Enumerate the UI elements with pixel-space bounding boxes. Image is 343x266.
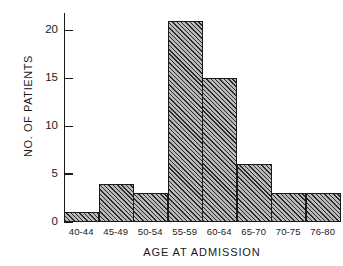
histogram-bar <box>168 21 203 222</box>
y-tick-label: 20 <box>32 24 58 36</box>
histogram-bar <box>64 212 99 222</box>
x-tick-label: 50-54 <box>133 226 168 237</box>
plot-area <box>64 13 340 222</box>
y-axis-line <box>64 13 65 222</box>
x-tick-label: 60-64 <box>202 226 237 237</box>
y-tick-mark <box>64 78 73 79</box>
y-tick-mark <box>64 30 73 31</box>
y-tick-label: 10 <box>32 120 58 132</box>
x-tick-label: 76-80 <box>306 226 341 237</box>
y-tick-label: 15 <box>32 72 58 84</box>
y-tick-label: 0 <box>32 216 58 228</box>
y-tick-mark <box>64 126 73 127</box>
histogram-bar <box>99 184 134 222</box>
x-tick-label: 65-70 <box>237 226 272 237</box>
x-axis-title: AGE AT ADMISSION <box>64 246 340 258</box>
x-tick-label: 55-59 <box>168 226 203 237</box>
histogram-bar <box>202 78 237 222</box>
histogram-bar <box>133 193 168 222</box>
histogram-bar <box>271 193 306 222</box>
histogram-bar <box>306 193 341 222</box>
x-tick-label: 40-44 <box>64 226 99 237</box>
x-tick-label: 70-75 <box>271 226 306 237</box>
x-tick-label: 45-49 <box>99 226 134 237</box>
histogram-figure: NO. OF PATIENTS 05101520 40-4445-4950-54… <box>0 0 343 266</box>
histogram-bar <box>237 164 272 222</box>
y-tick-mark <box>64 173 73 174</box>
y-tick-label: 5 <box>32 168 58 180</box>
